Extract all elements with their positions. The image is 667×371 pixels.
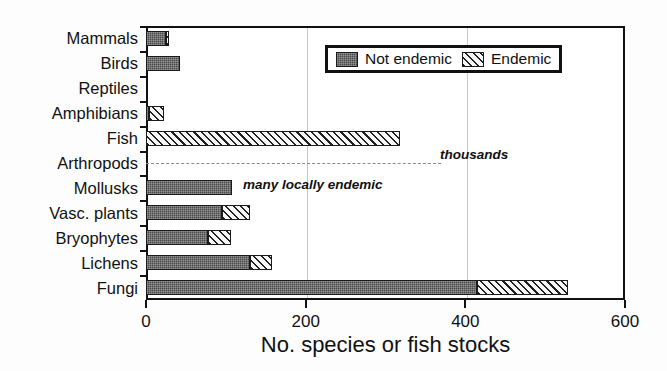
bar-segment-endemic-mammals: [166, 31, 169, 46]
y-axis-label-amphibians: Amphibians: [0, 105, 138, 122]
bar-segment-endemic-fish: [146, 131, 400, 146]
bar-segment-endemic-bryophytes: [208, 230, 230, 245]
bar-segment-not-endemic-vasc-plants: [146, 205, 222, 220]
bar-fungi: [146, 280, 568, 295]
bar-segment-endemic-lichens: [250, 255, 272, 270]
bar-vasc-plants: [146, 205, 250, 220]
bar-segment-not-endemic-mollusks: [146, 180, 232, 195]
bar-segment-endemic-amphibians: [149, 106, 163, 121]
bar-bryophytes: [146, 230, 231, 245]
y-axis-label-lichens: Lichens: [0, 255, 138, 272]
bar-segment-not-endemic-fungi: [146, 280, 477, 295]
annotation-thousands: thousands: [440, 148, 508, 162]
species-bar-chart: MammalsBirdsReptilesAmphibiansFishArthro…: [0, 0, 667, 371]
legend: Not endemic Endemic: [325, 45, 562, 73]
x-tick-200: [305, 300, 307, 308]
bar-segment-endemic-fungi: [477, 280, 568, 295]
legend-swatch-endemic: [462, 52, 484, 67]
dashed-line-arthropods: [146, 163, 441, 164]
y-axis-labels: MammalsBirdsReptilesAmphibiansFishArthro…: [0, 26, 142, 300]
x-tick-label-600: 600: [611, 312, 639, 332]
y-axis-label-fish: Fish: [0, 130, 138, 147]
x-tick-600: [624, 300, 626, 308]
bar-amphibians: [146, 106, 164, 121]
x-tick-label-0: 0: [141, 312, 150, 332]
y-axis-label-arthropods: Arthropods: [0, 155, 138, 172]
bar-lichens: [146, 255, 272, 270]
legend-entry-endemic: Endemic: [462, 50, 551, 68]
y-axis-label-bryophytes: Bryophytes: [0, 230, 138, 247]
bar-segment-not-endemic-bryophytes: [146, 230, 208, 245]
legend-entry-not-endemic: Not endemic: [336, 50, 452, 68]
bar-mollusks: [146, 180, 232, 195]
legend-label-endemic: Endemic: [491, 50, 551, 68]
bar-segment-not-endemic-birds: [146, 56, 180, 71]
x-tick-label-200: 200: [291, 312, 319, 332]
bar-fish: [146, 131, 400, 146]
bar-segment-endemic-vasc-plants: [222, 205, 250, 220]
y-axis-label-mollusks: Mollusks: [0, 180, 138, 197]
x-tick-0: [145, 300, 147, 308]
y-axis-label-fungi: Fungi: [0, 280, 138, 297]
annotation-many-locally-endemic: many locally endemic: [243, 178, 383, 192]
y-axis-label-reptiles: Reptiles: [0, 80, 138, 97]
bar-birds: [146, 56, 180, 71]
legend-swatch-not-endemic: [336, 52, 358, 67]
y-axis-label-vasc-plants: Vasc. plants: [0, 205, 138, 222]
x-axis-title: No. species or fish stocks: [146, 332, 625, 358]
legend-label-not-endemic: Not endemic: [365, 50, 452, 68]
bar-mammals: [146, 31, 169, 46]
y-axis-label-mammals: Mammals: [0, 30, 138, 47]
x-tick-400: [464, 300, 466, 308]
y-axis-label-birds: Birds: [0, 55, 138, 72]
bar-segment-not-endemic-lichens: [146, 255, 250, 270]
x-tick-label-400: 400: [451, 312, 479, 332]
bar-segment-not-endemic-mammals: [146, 31, 166, 46]
